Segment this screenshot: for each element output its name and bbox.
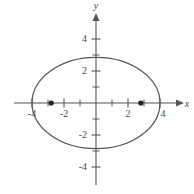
y-tick-label-neg2: -2 xyxy=(79,129,87,140)
x-tick-label-neg4: -4 xyxy=(28,108,36,119)
focus-point-right xyxy=(138,100,143,105)
ellipse-graph-figure: -4 -2 2 4 4 2 -2 -4 x y xyxy=(0,0,194,194)
y-axis-label: y xyxy=(93,0,99,11)
y-tick-label-neg4: -4 xyxy=(79,161,87,172)
x-tick-label-neg2: -2 xyxy=(60,108,68,119)
y-tick-label-pos4: 4 xyxy=(82,33,87,44)
x-tick-label-pos2: 2 xyxy=(126,108,131,119)
y-tick-label-pos2: 2 xyxy=(82,65,87,76)
x-tick-label-pos4: 4 xyxy=(161,108,166,119)
focus-point-left xyxy=(49,100,54,105)
coordinate-plane: -4 -2 2 4 4 2 -2 -4 x y xyxy=(0,0,194,194)
y-axis-arrow-up-icon xyxy=(93,13,100,21)
x-axis-arrow-right-icon xyxy=(176,100,184,107)
x-axis-label: x xyxy=(184,98,190,109)
